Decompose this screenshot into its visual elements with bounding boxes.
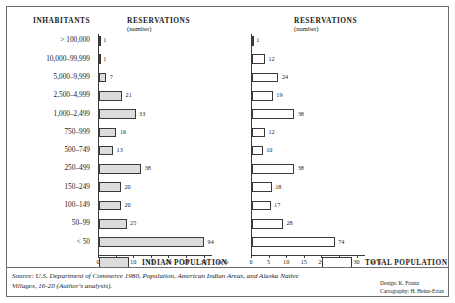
bar-row: 150–24920 — [20, 178, 230, 196]
bar-row: 18 — [243, 178, 443, 196]
header-reservations-left: RESERVATIONS — [127, 16, 190, 25]
bar-rows-indian: > 100,000110,000–99,99915,000–9,99972,50… — [20, 32, 230, 252]
credit-cartography: Cartography: H. Heinz-Erian — [380, 288, 444, 296]
bar-row: > 100,0001 — [20, 32, 230, 50]
credits-block: Design: K. Frantz Cartography: H. Heinz-… — [380, 280, 444, 296]
bar — [252, 73, 279, 83]
bar — [99, 109, 136, 119]
chart-panel-total: 11224193812103818172874051015202530in % — [243, 32, 443, 252]
category-label: 2,500–4,999 — [20, 90, 90, 99]
bar-row: 1 — [243, 32, 443, 50]
bar-row: 28 — [243, 215, 443, 233]
bar-row: 2,500–4,99921 — [20, 87, 230, 105]
bar-value-label: 12 — [268, 55, 274, 62]
header-reservations-left-sub: (number) — [127, 25, 152, 32]
category-label: 150–249 — [20, 182, 90, 191]
bar — [99, 91, 123, 101]
header-inhabitants: INHABITANTS — [33, 16, 90, 25]
category-label: > 100,000 — [20, 35, 90, 44]
header-reservations-right: RESERVATIONS — [294, 16, 357, 25]
bar-value-label: 10 — [266, 146, 272, 153]
category-label: 10,000–99,999 — [20, 54, 90, 63]
bar — [99, 128, 117, 138]
bar — [99, 237, 205, 247]
bar — [252, 237, 335, 247]
bar-row: 38 — [243, 160, 443, 178]
bar-row: 10 — [243, 142, 443, 160]
bar-value-label: 28 — [286, 219, 292, 226]
category-label: 250–499 — [20, 163, 90, 172]
bar-row: < 5094 — [20, 233, 230, 251]
bar — [99, 219, 127, 229]
bar-value-label: 18 — [275, 183, 281, 190]
bar-value-label: 12 — [268, 128, 274, 135]
bar-value-label: 25 — [130, 219, 136, 226]
bar — [99, 164, 142, 174]
category-label: 50–99 — [20, 218, 90, 227]
bar-value-label: 24 — [282, 73, 288, 80]
bar-row: 38 — [243, 105, 443, 123]
legend-label-indian: INDIAN POPULATION — [142, 258, 227, 267]
bar-row: 10,000–99,9991 — [20, 50, 230, 68]
bar — [252, 201, 271, 211]
y-axis-line — [251, 34, 252, 255]
bar-row: 100–14920 — [20, 197, 230, 215]
category-label: 100–149 — [20, 200, 90, 209]
bar — [252, 164, 295, 174]
category-label: 750–999 — [20, 127, 90, 136]
bar-row: 750–99916 — [20, 123, 230, 141]
bar-value-label: 1 — [256, 36, 259, 43]
bar — [99, 182, 121, 192]
category-label: 500–749 — [20, 145, 90, 154]
bar — [252, 219, 283, 229]
x-axis-tick-label: 10 — [283, 258, 289, 265]
bar-value-label: 38 — [298, 164, 304, 171]
bar — [99, 201, 121, 211]
bar-row: 1,000–2,49933 — [20, 105, 230, 123]
bar-value-label: 1 — [103, 36, 106, 43]
category-label: < 50 — [20, 237, 90, 246]
bar — [252, 54, 265, 64]
bar-row: 500–74913 — [20, 142, 230, 160]
bar-value-label: 20 — [124, 183, 130, 190]
footer-divider — [6, 267, 449, 268]
category-label: 1,000–2,499 — [20, 109, 90, 118]
bar-row: 24 — [243, 69, 443, 87]
bar — [252, 128, 265, 138]
bar — [99, 146, 114, 156]
bar-value-label: 94 — [208, 238, 214, 245]
bar-value-label: 1 — [103, 55, 106, 62]
category-label: 5,000–9,999 — [20, 72, 90, 81]
bar-value-label: 21 — [126, 91, 132, 98]
bar-value-label: 33 — [139, 110, 145, 117]
bar-value-label: 38 — [298, 110, 304, 117]
bar-value-label: 19 — [276, 91, 282, 98]
x-axis-tick-label: 0 — [249, 258, 252, 265]
chart-panel-indian: > 100,000110,000–99,99915,000–9,99972,50… — [20, 32, 230, 252]
bar-row: 250–49938 — [20, 160, 230, 178]
bar-value-label: 7 — [110, 73, 113, 80]
header-reservations-right-sub: (number) — [294, 25, 319, 32]
bar-row: 17 — [243, 197, 443, 215]
bar-rows-total: 11224193812103818172874051015202530in % — [243, 32, 443, 252]
bar-row: 74 — [243, 233, 443, 251]
figure-root: INHABITANTS RESERVATIONS (number) RESERV… — [0, 0, 455, 303]
bar — [252, 182, 272, 192]
bar — [252, 146, 263, 156]
x-axis-tick-label: 15 — [301, 258, 307, 265]
x-axis-tick-label: 5 — [267, 258, 270, 265]
bar-row: 12 — [243, 50, 443, 68]
bar-value-label: 17 — [274, 201, 280, 208]
y-axis-line — [98, 34, 99, 255]
bar-row: 19 — [243, 87, 443, 105]
bar-row: 50–9925 — [20, 215, 230, 233]
bar — [99, 73, 107, 83]
bar-value-label: 13 — [117, 146, 123, 153]
bar-value-label: 20 — [124, 201, 130, 208]
bar — [252, 91, 273, 101]
credit-design: Design: K. Frantz — [380, 280, 444, 288]
source-caption: Source: U.S. Department of Commerce 1980… — [12, 272, 312, 292]
bar-value-label: 38 — [145, 164, 151, 171]
bar-value-label: 16 — [120, 128, 126, 135]
bar-row: 5,000–9,9997 — [20, 69, 230, 87]
